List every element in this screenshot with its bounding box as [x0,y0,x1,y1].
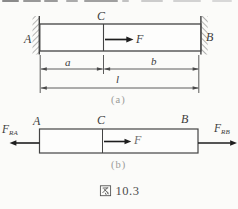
dim-arrowhead [104,67,110,71]
reaction-arrow-head-right [230,140,237,145]
wall-hatching-left [33,16,40,55]
dimension-label-l: l [116,74,119,85]
dimension-label-b: b [151,56,157,67]
label-support-A: A [24,33,31,45]
figure-number: 10.3 [116,184,140,198]
label-end-A: A [33,115,40,127]
figure-10-3: A C B F a b l (a) A C B F FRA FRB (b) [0,0,238,209]
label-point-C: C [97,10,105,22]
reaction-label-FRB: FRB [214,123,230,136]
cjk-char-tu-icon [99,184,112,197]
label-force-F: F [134,134,141,146]
subcaption-b: (b) [111,160,126,171]
dim-arrowhead [97,67,103,71]
diagram-a-drawing [0,0,238,100]
reaction-symbol: F [2,123,9,135]
reaction-label-FRA: FRA [2,124,18,137]
label-end-B: B [181,113,188,125]
bar-outline [40,24,201,51]
reaction-subscript: RA [9,129,18,137]
reaction-arrow-head-left [10,140,17,145]
dimension-label-a: a [65,57,71,68]
dim-arrowhead [41,86,47,90]
reaction-symbol: F [214,122,221,134]
dim-arrowhead [193,67,199,71]
label-point-C: C [97,114,105,126]
label-force-F: F [136,33,143,45]
figure-caption: 10.3 [0,184,238,198]
label-support-B: B [206,31,213,43]
diagram-b-drawing [0,100,238,185]
dim-arrowhead [41,67,47,71]
dim-arrowhead [193,86,199,90]
reaction-subscript: RB [221,128,230,136]
